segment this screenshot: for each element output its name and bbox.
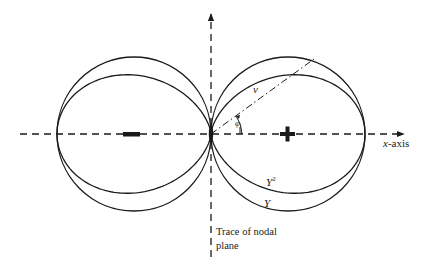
label-y: Y: [264, 197, 272, 209]
label-phi: φ: [235, 118, 240, 128]
label-nodal-line1: Trace of nodal: [216, 226, 277, 237]
label-x-axis: x-axis: [382, 137, 409, 149]
label-v: v: [253, 83, 258, 95]
orbital-diagram: v φ x-axis Y2 Y Trace of nodal plane: [0, 0, 424, 261]
minus-sign-icon: [123, 132, 140, 137]
radius-vector-v: [211, 59, 314, 134]
label-nodal-line2: plane: [216, 240, 239, 251]
plus-sign-icon-v: [286, 127, 290, 142]
y-squared-exp: 2: [272, 175, 276, 183]
x-axis-suffix: -axis: [388, 137, 409, 149]
label-y-squared: Y2: [266, 175, 276, 188]
